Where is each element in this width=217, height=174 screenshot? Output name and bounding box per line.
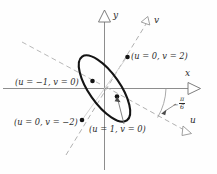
angle-numerator: π: [179, 96, 185, 103]
point-v-equals-minus-2: [80, 118, 85, 123]
point-label-u-equals-1: (u = 1, v = 0): [89, 125, 146, 133]
angle-denominator: 6: [179, 104, 185, 111]
point-label-u-equals-minus-1: (u = −1, v = 0): [15, 78, 79, 86]
u-axis-label: u: [190, 116, 196, 125]
math-figure: y x v u (u = 0, v = 2) (u = −1, v = 0) (…: [0, 0, 217, 174]
x-axis-label: x: [185, 69, 190, 78]
v-axis-line: [66, 24, 146, 155]
y-axis-label: y: [113, 11, 118, 20]
point-label-v-equals-minus-2: (u = 0, v = −2): [14, 118, 78, 126]
x-axis-arrowhead: [188, 83, 201, 95]
y-axis-arrowhead: [99, 10, 111, 22]
u-axis-arrowhead: [182, 126, 192, 136]
v-axis-arrowhead: [141, 17, 150, 26]
v-axis-label: v: [154, 16, 159, 25]
point-v-equals-2: [125, 55, 130, 60]
angle-minus-sign: −: [173, 101, 179, 109]
figure-canvas: [0, 0, 217, 174]
angle-fraction: π 6: [179, 96, 185, 111]
point-u-equals-minus-1: [90, 79, 95, 84]
point-label-v-equals-2: (u = 0, v = 2): [131, 52, 188, 60]
cartesian-axes: [3, 10, 201, 170]
